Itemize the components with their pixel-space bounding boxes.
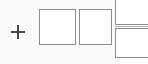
panel-top[interactable]	[115, 0, 148, 25]
add-plus-button[interactable]	[11, 25, 25, 39]
placeholder-tile-2[interactable]	[79, 9, 112, 45]
panel-divider	[115, 26, 148, 27]
placeholder-tile-1[interactable]	[39, 9, 76, 45]
plus-icon-vertical-bar	[17, 25, 19, 39]
panel-bottom[interactable]	[115, 28, 148, 58]
screenshot-canvas	[0, 0, 148, 64]
